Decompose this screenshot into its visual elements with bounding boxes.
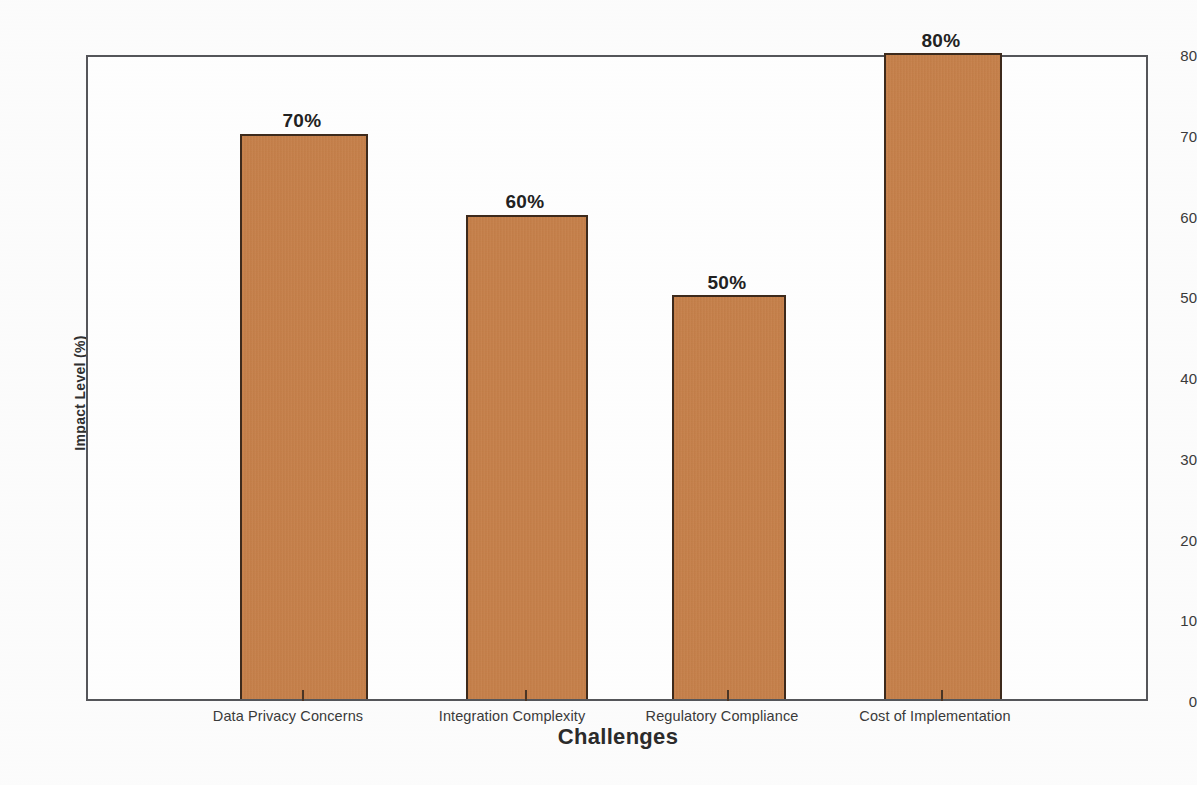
x-tick-label-integration-complexity: Integration Complexity (439, 708, 585, 724)
x-tick-label-data-privacy-concerns: Data Privacy Concerns (213, 708, 363, 724)
x-axis-title: Challenges (558, 724, 678, 750)
x-tick-label-regulatory-compliance: Regulatory Compliance (646, 708, 799, 724)
x-tick-label-cost-of-implementation: Cost of Implementation (859, 708, 1010, 724)
bar-value-label-data-privacy-concerns: 70% (282, 110, 321, 132)
bar-value-label-regulatory-compliance: 50% (707, 272, 746, 294)
plot-area (86, 55, 1148, 701)
bar-integration-complexity[interactable] (466, 215, 588, 700)
x-tick-mark-2 (525, 690, 527, 701)
x-tick-mark-4 (941, 690, 943, 701)
bar-data-privacy-concerns[interactable] (240, 134, 368, 699)
bar-regulatory-compliance[interactable] (672, 295, 786, 699)
x-tick-mark-3 (727, 690, 729, 701)
bar-value-label-integration-complexity: 60% (505, 191, 544, 213)
bar-value-label-cost-of-implementation: 80% (921, 30, 960, 52)
bar-cost-of-implementation[interactable] (884, 53, 1002, 699)
x-tick-mark-1 (302, 690, 304, 701)
chart-figure: Impact Level (%) 80 70 60 50 40 30 20 10… (0, 0, 1197, 785)
